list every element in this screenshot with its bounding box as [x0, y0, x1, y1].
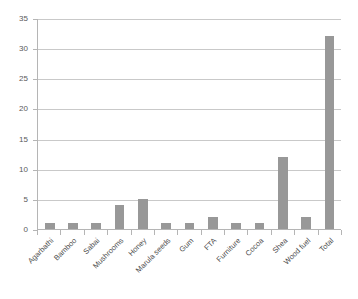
bar[interactable] — [231, 223, 241, 229]
bar[interactable] — [45, 223, 55, 229]
bars-layer — [38, 19, 341, 229]
x-axis-tick-label-text: Honey — [127, 236, 149, 258]
y-axis-labels: 05101520253035 — [0, 14, 33, 229]
y-tick-label: 25 — [19, 74, 28, 84]
bar[interactable] — [278, 157, 288, 229]
bar-slot — [271, 19, 294, 229]
bar[interactable] — [208, 217, 218, 229]
x-axis-tick-label-text: FTA — [203, 236, 219, 252]
bar-chart: 05101520253035 AgarbathiBambooSabaiMushr… — [0, 0, 358, 299]
x-axis-labels: AgarbathiBambooSabaiMushroomsHoneyMarula… — [37, 236, 341, 298]
y-tick-label: 10 — [19, 165, 28, 175]
bar-slot — [178, 19, 201, 229]
plot-area — [37, 19, 341, 230]
y-tick-mark — [33, 170, 37, 171]
bar-slot — [248, 19, 271, 229]
x-axis-tick-label-text: Gum — [177, 236, 195, 254]
x-axis-tick-label-text: Sabai — [82, 236, 102, 256]
y-tick-mark — [33, 109, 37, 110]
x-axis-tick-label-text: Cocoa — [244, 236, 266, 258]
x-axis-tick-label-text: Total — [318, 236, 336, 254]
y-tick-mark — [33, 230, 37, 231]
y-tick-label: 35 — [19, 14, 28, 24]
bar-slot — [85, 19, 108, 229]
bar-slot — [155, 19, 178, 229]
bar-slot — [131, 19, 154, 229]
y-tick-mark — [33, 19, 37, 20]
bar[interactable] — [301, 217, 311, 229]
y-tick-label: 0 — [23, 225, 28, 235]
x-axis-tick-label-text: Agarbathi — [26, 236, 55, 265]
bar[interactable] — [325, 36, 335, 229]
bar[interactable] — [115, 205, 125, 229]
bar-slot — [38, 19, 61, 229]
bar-slot — [61, 19, 84, 229]
bar-slot — [201, 19, 224, 229]
y-tick-mark — [33, 79, 37, 80]
bar-slot — [225, 19, 248, 229]
y-tick-label: 5 — [23, 195, 28, 205]
y-tick-label: 15 — [19, 135, 28, 145]
bar-slot — [108, 19, 131, 229]
y-tick-mark — [33, 200, 37, 201]
y-tick-mark — [33, 140, 37, 141]
bar-slot — [294, 19, 317, 229]
x-axis-tick-label-text: Shea — [270, 236, 289, 255]
y-tick-mark — [33, 49, 37, 50]
x-tick-mark — [37, 230, 38, 235]
y-tick-label: 30 — [19, 44, 28, 54]
y-tick-label: 20 — [19, 104, 28, 114]
bar-slot — [318, 19, 341, 229]
